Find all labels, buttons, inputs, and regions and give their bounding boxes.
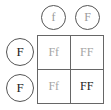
- cell-r1c2: FF: [71, 36, 104, 70]
- side-allele-1: F: [6, 38, 34, 66]
- cell-r1c1: Ff: [38, 36, 71, 70]
- cell-r2c2: FF: [71, 70, 104, 104]
- top-allele-1: f: [41, 5, 66, 30]
- side-allele-2: F: [6, 74, 34, 102]
- punnett-square: Ff FF Ff FF: [37, 35, 104, 104]
- cell-r2c1: Ff: [38, 70, 71, 104]
- top-allele-2: F: [75, 5, 100, 30]
